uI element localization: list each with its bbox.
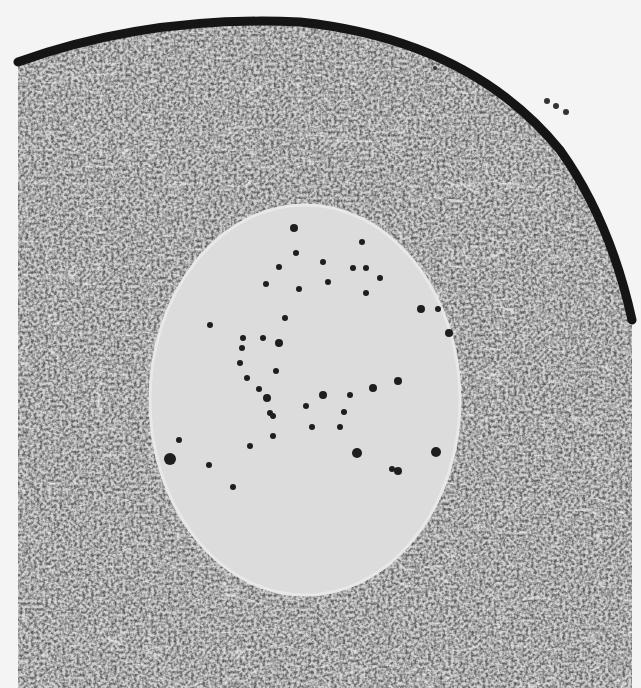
nucleus <box>150 205 460 595</box>
nucleolus <box>431 447 441 457</box>
nucleolus <box>337 424 343 430</box>
nucleolus <box>239 345 245 351</box>
micrograph <box>0 0 641 688</box>
nucleolus <box>290 224 298 232</box>
nucleolus <box>256 386 262 392</box>
nucleolus <box>309 424 315 430</box>
nucleolus <box>389 466 395 472</box>
nucleolus <box>176 437 182 443</box>
nucleolus <box>303 403 309 409</box>
nucleolus <box>267 410 273 416</box>
nucleolus <box>325 279 331 285</box>
nucleolus <box>377 275 383 281</box>
nucleolus <box>369 384 377 392</box>
nucleolus <box>394 377 402 385</box>
nucleolus <box>276 264 282 270</box>
nucleolus <box>240 335 246 341</box>
nucleolus <box>363 290 369 296</box>
nucleolus <box>275 339 283 347</box>
nucleolus <box>293 250 299 256</box>
nucleolus <box>347 392 353 398</box>
nucleolus <box>296 286 302 292</box>
nucleolus <box>207 322 213 328</box>
micrograph-canvas <box>0 0 641 688</box>
nucleolus <box>417 305 425 313</box>
nucleolus <box>341 409 347 415</box>
nucleolus <box>319 391 327 399</box>
nucleolus <box>263 281 269 287</box>
nucleolus <box>164 453 176 465</box>
nucleolus <box>435 306 441 312</box>
nucleolus <box>359 239 365 245</box>
nucleolus <box>445 329 453 337</box>
nucleolus <box>352 448 362 458</box>
nucleolus <box>237 360 243 366</box>
nucleolus <box>320 259 326 265</box>
nucleolus <box>263 394 271 402</box>
nucleolus <box>363 265 369 271</box>
nucleolus <box>282 315 288 321</box>
nucleolus <box>247 443 253 449</box>
nucleolus <box>273 368 279 374</box>
nucleolus <box>260 335 266 341</box>
nucleolus <box>350 265 356 271</box>
nucleolus <box>270 433 276 439</box>
nucleolus <box>394 467 402 475</box>
nucleolus <box>244 375 250 381</box>
nucleolus <box>206 462 212 468</box>
nucleolus <box>230 484 236 490</box>
